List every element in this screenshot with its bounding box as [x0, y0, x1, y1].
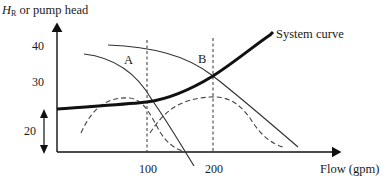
- y-axis-label-sub: R: [11, 9, 16, 18]
- curve-b-label: B: [198, 53, 206, 66]
- pump-b-efficiency-curve: [150, 97, 283, 147]
- y-axis-label-var: H: [2, 3, 11, 17]
- x-axis-label: Flow (gpm): [320, 163, 379, 176]
- system-curve: [57, 32, 273, 109]
- y-tick-30: 30: [32, 76, 44, 88]
- x-tick-200: 200: [205, 163, 223, 175]
- system-curve-label: System curve: [276, 28, 344, 41]
- y-tick-40: 40: [32, 40, 44, 52]
- static-head-arrow: [40, 109, 48, 154]
- y-axis-label-rest: or pump head: [16, 3, 88, 17]
- y-tick-20: 20: [24, 125, 36, 137]
- x-tick-100: 100: [139, 163, 157, 175]
- curve-a-label: A: [124, 54, 133, 67]
- y-axis-label: HR or pump head: [2, 4, 88, 17]
